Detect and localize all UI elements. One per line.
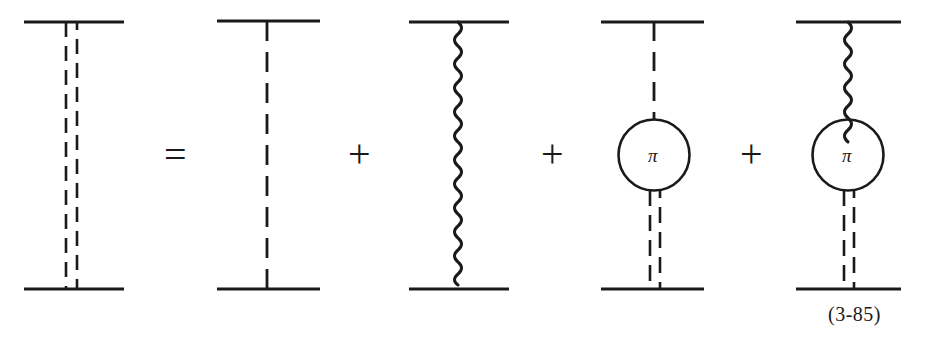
pion-label-term-4: π — [648, 146, 658, 165]
equation-number: (3-85) — [828, 303, 881, 326]
term-1-diagram — [24, 22, 124, 289]
feynman-diagram-equation — [0, 0, 932, 343]
term-5-wavy-propagator — [845, 22, 852, 142]
term-3-wavy-propagator — [455, 22, 462, 285]
equals-sign: = — [164, 135, 187, 175]
plus-sign-1: + — [348, 134, 371, 174]
term-2-diagram — [217, 21, 320, 289]
plus-sign-2: + — [541, 134, 564, 174]
term-3-diagram — [409, 22, 509, 289]
pion-label-term-5: π — [842, 146, 852, 165]
plus-sign-3: + — [740, 134, 763, 174]
